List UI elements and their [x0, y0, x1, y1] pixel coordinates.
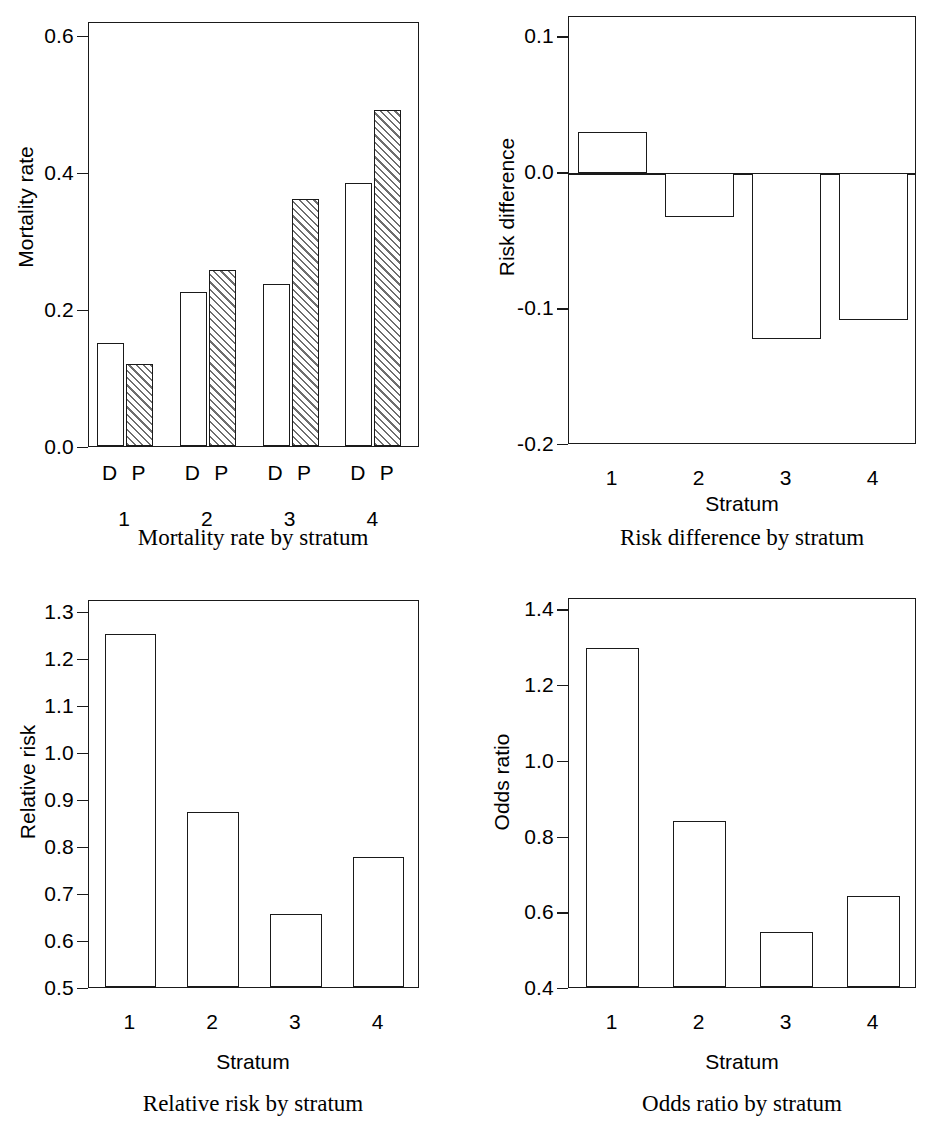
bar-odds-ratio-stratum-3	[760, 932, 814, 987]
x-stratum-label: 1	[606, 466, 618, 490]
bars-odds-ratio	[569, 599, 915, 987]
plot-area-risk-difference	[568, 16, 916, 444]
y-tick-label: 0.5	[0, 976, 74, 1000]
y-tick-label: -0.2	[470, 432, 554, 456]
caption-risk-difference: Risk difference by stratum	[620, 525, 864, 551]
bar-relative-risk-stratum-2	[187, 812, 238, 987]
x-mark-P: P	[297, 461, 311, 485]
y-axis-label-mortality: Mortality rate	[14, 117, 38, 297]
bar-mortality-P-stratum-4	[374, 110, 401, 446]
x-axis-title-odds-ratio: Stratum	[705, 1050, 779, 1074]
x-stratum-label: 4	[867, 466, 879, 490]
y-tick-mark	[77, 988, 88, 989]
bar-risk-difference-stratum-2	[665, 173, 735, 216]
bar-odds-ratio-stratum-4	[847, 896, 901, 987]
y-tick-mark	[77, 941, 88, 942]
y-tick-mark	[77, 706, 88, 707]
y-tick-mark	[77, 847, 88, 848]
bar-mortality-D-stratum-1	[97, 343, 124, 446]
y-tick-mark	[77, 612, 88, 613]
x-axis-title-relative-risk: Stratum	[216, 1050, 290, 1074]
y-tick-label: 0.6	[470, 900, 554, 924]
y-tick-label: 0.6	[0, 929, 74, 953]
y-tick-label: 1.0	[0, 741, 74, 765]
y-tick-mark	[557, 444, 568, 445]
panel-mortality-rate: Mortality rate 0.00.20.40.6 DPDPDPDP 123…	[0, 0, 470, 570]
bar-risk-difference-stratum-4	[839, 173, 909, 320]
panel-odds-ratio: Odds ratio 1.41.21.00.80.60.4 1234 Strat…	[470, 570, 941, 1141]
plot-area-odds-ratio	[568, 598, 916, 988]
x-mark-D: D	[102, 461, 117, 485]
bar-risk-difference-stratum-3	[752, 173, 822, 339]
y-tick-label: 0.2	[0, 298, 74, 322]
x-mark-D: D	[185, 461, 200, 485]
bar-mortality-D-stratum-3	[263, 284, 290, 446]
multi-panel-figure: Mortality rate 0.00.20.40.6 DPDPDPDP 123…	[0, 0, 941, 1141]
y-tick-label: 0.0	[470, 160, 554, 184]
bar-mortality-P-stratum-3	[292, 199, 319, 446]
y-tick-label: 1.3	[0, 600, 74, 624]
plot-area-mortality	[88, 22, 419, 447]
bar-mortality-P-stratum-2	[209, 270, 236, 446]
x-mark-P: P	[131, 461, 145, 485]
y-tick-mark	[557, 912, 568, 913]
y-tick-mark	[77, 894, 88, 895]
y-tick-label: -0.1	[470, 296, 554, 320]
y-tick-mark	[557, 172, 568, 173]
y-tick-mark	[77, 659, 88, 660]
x-stratum-label: 3	[780, 1010, 792, 1034]
bar-relative-risk-stratum-3	[270, 914, 321, 987]
y-tick-mark	[557, 609, 568, 610]
bar-relative-risk-stratum-1	[105, 634, 156, 987]
y-tick-label: 0.6	[0, 24, 74, 48]
y-tick-label: 1.4	[470, 597, 554, 621]
y-tick-label: 0.8	[470, 825, 554, 849]
y-tick-mark	[77, 800, 88, 801]
panel-risk-difference: Risk difference 0.10.0-0.1-0.2 1234 Stra…	[470, 0, 941, 570]
bar-mortality-D-stratum-2	[180, 292, 207, 446]
y-tick-label: 0.1	[470, 24, 554, 48]
y-tick-label: 0.0	[0, 435, 74, 459]
bar-mortality-D-stratum-4	[345, 183, 372, 446]
y-tick-mark	[557, 685, 568, 686]
plot-area-relative-risk	[88, 600, 419, 988]
y-tick-mark	[77, 310, 88, 311]
y-tick-label: 1.0	[470, 749, 554, 773]
y-axis-label-risk-difference: Risk difference	[495, 102, 519, 312]
bar-odds-ratio-stratum-2	[673, 821, 727, 988]
x-mark-P: P	[214, 461, 228, 485]
x-stratum-label: 1	[118, 507, 130, 531]
bar-risk-difference-stratum-1	[578, 132, 648, 173]
bar-relative-risk-stratum-4	[353, 857, 404, 987]
y-tick-mark	[557, 837, 568, 838]
x-stratum-label: 3	[780, 466, 792, 490]
x-mark-P: P	[380, 461, 394, 485]
y-tick-mark	[77, 36, 88, 37]
y-tick-label: 0.8	[0, 835, 74, 859]
bar-mortality-P-stratum-1	[126, 364, 153, 446]
caption-mortality: Mortality rate by stratum	[138, 525, 369, 551]
y-tick-label: 1.1	[0, 694, 74, 718]
y-tick-label: 0.9	[0, 788, 74, 812]
caption-odds-ratio: Odds ratio by stratum	[642, 1091, 842, 1117]
y-tick-label: 1.2	[0, 647, 74, 671]
y-tick-label: 0.4	[470, 976, 554, 1000]
bars-mortality	[89, 23, 418, 446]
y-tick-label: 1.2	[470, 673, 554, 697]
x-stratum-label: 2	[693, 466, 705, 490]
bar-odds-ratio-stratum-1	[586, 648, 640, 987]
x-stratum-label: 4	[867, 1010, 879, 1034]
y-tick-mark	[557, 988, 568, 989]
y-tick-mark	[77, 173, 88, 174]
x-mark-D: D	[350, 461, 365, 485]
x-stratum-label: 2	[206, 1010, 218, 1034]
y-tick-mark	[77, 753, 88, 754]
bars-risk-difference	[569, 17, 915, 443]
x-axis-title-risk-difference: Stratum	[705, 492, 779, 516]
y-tick-mark	[557, 761, 568, 762]
y-tick-label: 0.4	[0, 161, 74, 185]
x-stratum-label: 2	[693, 1010, 705, 1034]
bars-relative-risk	[89, 601, 418, 987]
y-tick-label: 0.7	[0, 882, 74, 906]
x-mark-D: D	[267, 461, 282, 485]
